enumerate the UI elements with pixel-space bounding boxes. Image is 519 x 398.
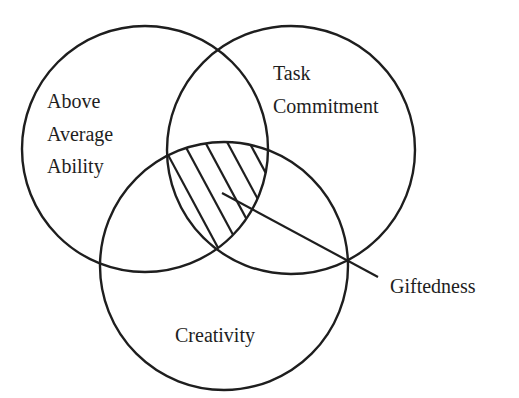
giftedness-region: [160, 140, 318, 270]
label-task: Task: [273, 62, 310, 84]
label-average: Average: [47, 123, 113, 146]
venn-diagram: Above Average Ability Task Commitment Cr…: [0, 0, 519, 398]
label-creativity: Creativity: [175, 324, 255, 347]
label-above: Above: [47, 90, 100, 112]
label-ability: Ability: [47, 155, 104, 178]
label-commitment: Commitment: [273, 95, 379, 117]
label-giftedness: Giftedness: [390, 275, 476, 297]
